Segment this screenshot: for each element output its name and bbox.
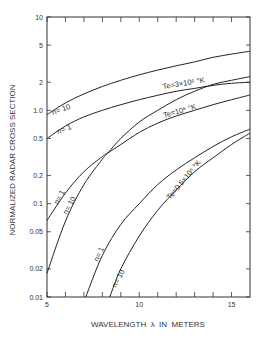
curve-3 bbox=[47, 95, 250, 221]
y-tick-label: 0.1 bbox=[33, 200, 43, 207]
y-tick-label: 0.05 bbox=[29, 228, 43, 235]
y-tick-label: 0.02 bbox=[29, 265, 43, 272]
y-tick-label: 0.5 bbox=[33, 135, 43, 142]
y-tick-label: 10 bbox=[35, 14, 43, 21]
y-tick-label: 5 bbox=[39, 42, 43, 49]
annotation-n10-te05: n= 10 bbox=[110, 268, 127, 289]
annotation-te-3e6: Te=3×10⁶ °K bbox=[162, 75, 205, 91]
x-tick-label: 15 bbox=[228, 301, 236, 308]
plot-border bbox=[47, 17, 250, 297]
x-tick-label: 5 bbox=[45, 301, 49, 308]
x-tick-label: 10 bbox=[135, 301, 143, 308]
annotation-n1-te05: n= 1 bbox=[92, 246, 106, 263]
annotation-n1-te3: n= 1 bbox=[56, 122, 73, 136]
y-tick-label: 1.0 bbox=[33, 107, 43, 114]
x-axis-label: WAVELENGTH λ IN METERS bbox=[91, 320, 205, 329]
curve-2 bbox=[47, 82, 250, 138]
y-tick-label: 0.2 bbox=[33, 172, 43, 179]
curve-5 bbox=[86, 129, 250, 297]
y-tick-label: 2 bbox=[39, 79, 43, 86]
y-axis-label: NORMALIZED RADAR CROSS SECTION bbox=[8, 84, 17, 235]
curve-4 bbox=[47, 77, 250, 274]
plot-frame bbox=[47, 17, 250, 297]
annotation-n10-te3: n= 10 bbox=[51, 102, 72, 117]
y-tick-label: 0.01 bbox=[29, 294, 43, 301]
data-curves bbox=[47, 51, 250, 297]
radar-cross-section-chart: 0.010.020.050.10.20.51.02510 51015 NORMA… bbox=[0, 0, 264, 340]
curve-6 bbox=[110, 133, 250, 297]
